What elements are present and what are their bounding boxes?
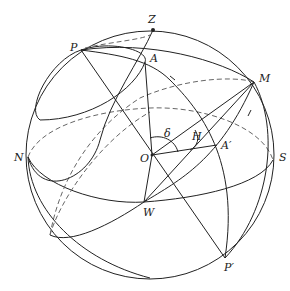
meridian bbox=[81, 47, 268, 258]
label-A: A bbox=[150, 53, 158, 64]
label-H: H bbox=[192, 131, 202, 142]
label-Z: Z bbox=[148, 14, 156, 25]
line-OA-prime bbox=[152, 145, 217, 155]
origin-dot bbox=[151, 154, 154, 157]
arrow-right bbox=[248, 110, 251, 116]
label-W: W bbox=[143, 207, 154, 218]
label-S: S bbox=[279, 152, 287, 163]
label-P-prime: P′ bbox=[224, 262, 234, 273]
label-delta: δ bbox=[164, 128, 171, 139]
vertical-circle bbox=[28, 30, 153, 181]
line-O-M bbox=[152, 82, 254, 155]
dashed-arc-left bbox=[50, 112, 150, 235]
arrow-upper bbox=[170, 76, 175, 80]
label-M: M bbox=[259, 73, 270, 84]
celestial-sphere-diagram bbox=[0, 0, 290, 291]
zenith-dot bbox=[151, 28, 155, 32]
line-OA bbox=[145, 62, 152, 155]
small-curve-left bbox=[28, 157, 150, 278]
label-P: P bbox=[70, 42, 77, 53]
label-N: N bbox=[14, 152, 24, 163]
label-O: O bbox=[140, 153, 149, 164]
diurnal-circle bbox=[36, 46, 146, 120]
label-A-prime: A′ bbox=[221, 140, 231, 151]
sphere-outline bbox=[26, 31, 274, 279]
